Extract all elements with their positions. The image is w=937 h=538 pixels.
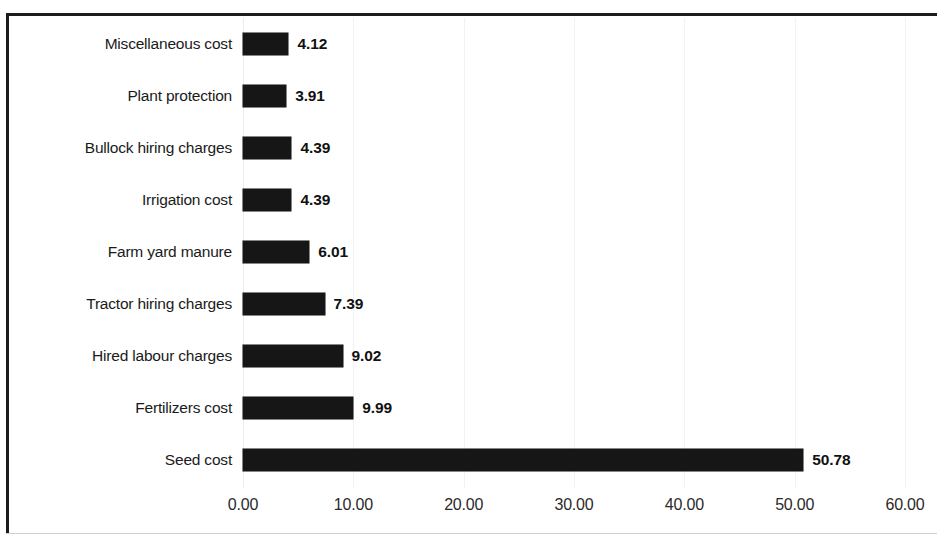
bar-row: Seed cost50.78 xyxy=(0,434,937,486)
figure-border-top xyxy=(6,13,937,16)
bar-value-label: 4.39 xyxy=(300,191,330,209)
bar[interactable] xyxy=(243,85,286,107)
x-tick-label: 40.00 xyxy=(665,496,704,514)
bar-row: Farm yard manure6.01 xyxy=(0,226,937,278)
bar[interactable] xyxy=(243,33,288,55)
bar[interactable] xyxy=(243,449,803,471)
figure-border-bottom xyxy=(6,533,937,534)
x-tick-label: 30.00 xyxy=(554,496,593,514)
bar-value-label: 50.78 xyxy=(812,451,850,469)
category-label: Fertilizers cost xyxy=(0,399,232,417)
bar-value-label: 3.91 xyxy=(295,87,325,105)
bar-and-value: 4.12 xyxy=(243,18,327,70)
bar[interactable] xyxy=(243,241,309,263)
bar-value-label: 4.39 xyxy=(300,139,330,157)
bar-and-value: 7.39 xyxy=(243,278,363,330)
bar-row: Irrigation cost4.39 xyxy=(0,174,937,226)
bar-row: Miscellaneous cost4.12 xyxy=(0,18,937,70)
bar-row: Tractor hiring charges7.39 xyxy=(0,278,937,330)
bar-and-value: 9.02 xyxy=(243,330,381,382)
bar-and-value: 6.01 xyxy=(243,226,348,278)
bar[interactable] xyxy=(243,293,325,315)
bar-row: Fertilizers cost9.99 xyxy=(0,382,937,434)
category-label: Irrigation cost xyxy=(0,191,232,209)
bar-value-label: 4.12 xyxy=(297,35,327,53)
bar[interactable] xyxy=(243,397,353,419)
x-tick-label: 60.00 xyxy=(885,496,924,514)
category-label: Seed cost xyxy=(0,451,232,469)
bar-row: Plant protection3.91 xyxy=(0,70,937,122)
x-tick-label: 50.00 xyxy=(775,496,814,514)
bar-and-value: 4.39 xyxy=(243,174,330,226)
bar-chart-figure: Miscellaneous cost4.12Plant protection3.… xyxy=(0,0,937,538)
x-tick-label: 10.00 xyxy=(334,496,373,514)
bar-row: Bullock hiring charges4.39 xyxy=(0,122,937,174)
category-label: Bullock hiring charges xyxy=(0,139,232,157)
bar-and-value: 9.99 xyxy=(243,382,392,434)
bar-value-label: 6.01 xyxy=(318,243,348,261)
bar-and-value: 50.78 xyxy=(243,434,851,486)
category-label: Hired labour charges xyxy=(0,347,232,365)
bar-and-value: 3.91 xyxy=(243,70,325,122)
category-label: Miscellaneous cost xyxy=(0,35,232,53)
category-label: Tractor hiring charges xyxy=(0,295,232,313)
bar-and-value: 4.39 xyxy=(243,122,330,174)
x-tick-label: 20.00 xyxy=(444,496,483,514)
bar-row: Hired labour charges9.02 xyxy=(0,330,937,382)
x-axis-tick-labels: 0.0010.0020.0030.0040.0050.0060.00 xyxy=(0,496,937,526)
bar[interactable] xyxy=(243,137,291,159)
bar[interactable] xyxy=(243,189,291,211)
x-tick-label: 0.00 xyxy=(228,496,258,514)
bar-value-label: 9.02 xyxy=(352,347,382,365)
bar-value-label: 9.99 xyxy=(362,399,392,417)
category-label: Plant protection xyxy=(0,87,232,105)
bar[interactable] xyxy=(243,345,343,367)
category-label: Farm yard manure xyxy=(0,243,232,261)
bar-value-label: 7.39 xyxy=(334,295,364,313)
bar-rows-container: Miscellaneous cost4.12Plant protection3.… xyxy=(0,18,937,488)
